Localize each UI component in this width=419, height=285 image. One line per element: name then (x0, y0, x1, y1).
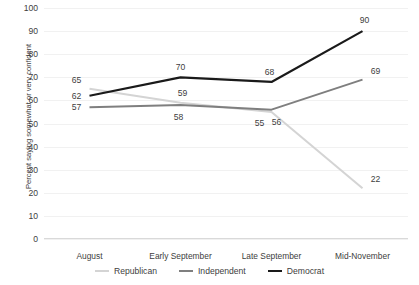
x-tick-label: Mid-November (335, 251, 390, 261)
data-label: 56 (272, 117, 282, 127)
legend-swatch-icon (179, 270, 193, 272)
series-lines (44, 8, 408, 239)
y-tick-label: 40 (8, 142, 38, 152)
legend-label: Republican (114, 266, 157, 276)
legend-item-independent[interactable]: Independent (179, 266, 246, 276)
x-tick-label: Late September (242, 251, 302, 261)
series-line-democrat (90, 31, 363, 96)
data-label: 55 (255, 118, 265, 128)
data-label: 68 (265, 67, 275, 77)
plot-area: 0102030405060708090100 65595522575856696… (44, 8, 408, 239)
y-tick-label: 70 (8, 72, 38, 82)
data-label: 65 (72, 75, 82, 85)
legend-label: Democrat (287, 266, 324, 276)
y-tick-label: 0 (8, 234, 38, 244)
data-label: 59 (178, 88, 188, 98)
data-label: 58 (174, 112, 184, 122)
legend: RepublicanIndependentDemocrat (0, 266, 419, 276)
series-line-republican (90, 89, 363, 188)
data-label: 70 (176, 62, 186, 72)
y-tick-label: 30 (8, 165, 38, 175)
data-label: 90 (360, 15, 370, 25)
y-tick-label: 90 (8, 26, 38, 36)
legend-swatch-icon (268, 270, 282, 272)
y-tick-label: 50 (8, 119, 38, 129)
y-tick-label: 60 (8, 95, 38, 105)
data-label: 69 (371, 66, 381, 76)
data-label: 57 (72, 102, 82, 112)
legend-item-republican[interactable]: Republican (95, 266, 157, 276)
x-tick-label: Early September (149, 251, 211, 261)
x-tick-label: August (76, 251, 102, 261)
y-tick-label: 10 (8, 211, 38, 221)
legend-swatch-icon (95, 270, 109, 272)
line-chart: Percent saying somewhat or very confiden… (0, 0, 419, 285)
legend-item-democrat[interactable]: Democrat (268, 266, 324, 276)
legend-label: Independent (198, 266, 246, 276)
y-tick-label: 100 (8, 3, 38, 13)
data-label: 22 (371, 174, 381, 184)
y-tick-label: 80 (8, 49, 38, 59)
data-label: 62 (72, 91, 82, 101)
y-tick-label: 20 (8, 188, 38, 198)
gridline (44, 239, 408, 240)
